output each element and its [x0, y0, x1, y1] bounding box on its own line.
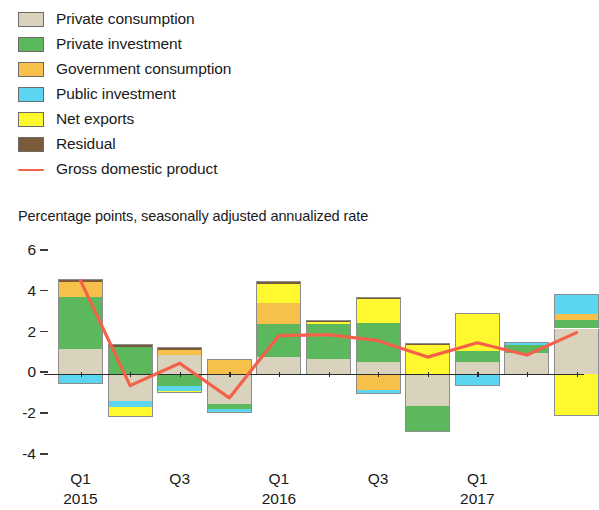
- x-axis-label-group: Q3: [140, 470, 220, 490]
- chart-plot-area: 6420-2-4: [0, 232, 588, 472]
- legend-item-label: Private consumption: [56, 11, 195, 27]
- x-axis-quarter-label: Q3: [140, 470, 220, 488]
- x-axis-quarter-label: Q1: [239, 470, 319, 488]
- chart-legend: Private consumptionPrivate investmentGov…: [18, 8, 231, 180]
- legend-item-label: Net exports: [56, 111, 134, 127]
- legend-swatch-icon: [18, 87, 44, 102]
- gdp-line-path: [81, 281, 577, 398]
- x-axis-label-group: Q12017: [437, 470, 517, 508]
- x-axis-quarter-label: Q1: [437, 470, 517, 488]
- chart-subtitle: Percentage points, seasonally adjusted a…: [18, 208, 368, 224]
- legend-swatch-icon: [18, 137, 44, 152]
- legend-line-icon: [18, 162, 44, 177]
- x-axis-year-label: 2017: [437, 490, 517, 508]
- x-axis-year-label: 2016: [239, 490, 319, 508]
- legend-item-label: Residual: [56, 136, 116, 152]
- legend-item-label: Government consumption: [56, 61, 231, 77]
- x-axis-quarter-label: Q3: [338, 470, 418, 488]
- legend-item-label: Gross domestic product: [56, 161, 217, 177]
- x-axis-quarter-label: Q1: [41, 470, 121, 488]
- legend-swatch-icon: [18, 62, 44, 77]
- legend-item-residual[interactable]: Residual: [18, 133, 231, 155]
- legend-item-private-investment[interactable]: Private investment: [18, 33, 231, 55]
- legend-swatch-icon: [18, 12, 44, 27]
- legend-item-government-consumption[interactable]: Government consumption: [18, 58, 231, 80]
- legend-item-gross-domestic-product[interactable]: Gross domestic product: [18, 158, 231, 180]
- legend-item-net-exports[interactable]: Net exports: [18, 108, 231, 130]
- legend-item-label: Private investment: [56, 36, 182, 52]
- gdp-line-series: [0, 232, 588, 472]
- x-axis-labels: Q12015Q3Q12016Q3Q12017: [0, 470, 588, 510]
- legend-item-private-consumption[interactable]: Private consumption: [18, 8, 231, 30]
- legend-swatch-icon: [18, 37, 44, 52]
- x-axis-year-label: 2015: [41, 490, 121, 508]
- x-axis-label-group: Q12015: [41, 470, 121, 508]
- legend-item-label: Public investment: [56, 86, 176, 102]
- x-axis-label-group: Q12016: [239, 470, 319, 508]
- x-axis-label-group: Q3: [338, 470, 418, 490]
- legend-item-public-investment[interactable]: Public investment: [18, 83, 231, 105]
- legend-swatch-icon: [18, 112, 44, 127]
